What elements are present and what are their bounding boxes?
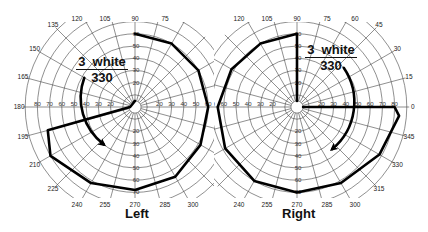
svg-text:345: 345: [404, 133, 415, 140]
svg-text:40: 40: [133, 55, 140, 61]
svg-text:60: 60: [295, 177, 302, 183]
svg-text:20: 20: [269, 101, 276, 107]
svg-text:75: 75: [323, 15, 331, 22]
svg-text:70: 70: [46, 101, 53, 107]
svg-text:300: 300: [188, 201, 199, 208]
svg-text:60: 60: [351, 15, 359, 22]
svg-text:30: 30: [394, 45, 402, 52]
svg-text:195: 195: [18, 133, 29, 140]
svg-text:285: 285: [322, 201, 333, 208]
svg-text:50: 50: [133, 165, 140, 171]
svg-text:30: 30: [295, 141, 302, 147]
svg-text:30: 30: [257, 101, 264, 107]
svg-text:50: 50: [193, 101, 200, 107]
svg-text:90: 90: [293, 15, 301, 22]
svg-text:330: 330: [392, 161, 403, 168]
svg-text:40: 40: [83, 101, 90, 107]
svg-text:210: 210: [29, 161, 40, 168]
right-eye-label: Right: [282, 206, 315, 221]
svg-text:30: 30: [133, 67, 140, 73]
left-eye-label: Left: [125, 206, 149, 221]
svg-text:255: 255: [100, 201, 111, 208]
svg-text:40: 40: [245, 101, 252, 107]
svg-text:50: 50: [133, 43, 140, 49]
svg-text:40: 40: [295, 153, 302, 159]
svg-text:285: 285: [160, 201, 171, 208]
svg-text:60: 60: [58, 101, 65, 107]
left-stimulus-size-color: 3 white: [76, 55, 128, 69]
svg-text:20: 20: [156, 101, 163, 107]
svg-text:50: 50: [71, 101, 78, 107]
visual-field-chart: 2020202030303030404040405050505060606060…: [0, 0, 428, 232]
svg-text:105: 105: [262, 15, 273, 22]
right-stimulus-size-color: 3 white: [305, 43, 357, 57]
svg-text:30: 30: [133, 141, 140, 147]
svg-text:80: 80: [34, 101, 41, 107]
svg-text:90: 90: [131, 15, 139, 22]
svg-text:30: 30: [95, 101, 102, 107]
svg-text:0: 0: [411, 103, 415, 110]
svg-text:75: 75: [161, 15, 169, 22]
svg-text:135: 135: [48, 21, 59, 28]
svg-text:240: 240: [72, 201, 83, 208]
svg-text:20: 20: [107, 101, 114, 107]
left-stimulus-label: 3 white 330: [76, 55, 128, 85]
svg-text:225: 225: [48, 185, 59, 192]
svg-text:20: 20: [295, 128, 302, 134]
svg-text:300: 300: [350, 201, 361, 208]
svg-text:150: 150: [29, 45, 40, 52]
svg-text:255: 255: [262, 201, 273, 208]
svg-text:60: 60: [220, 101, 227, 107]
svg-text:315: 315: [374, 185, 385, 192]
svg-text:50: 50: [233, 101, 240, 107]
svg-text:240: 240: [234, 201, 245, 208]
svg-text:20: 20: [133, 80, 140, 86]
svg-text:50: 50: [295, 165, 302, 171]
right-stimulus-intensity: 330: [305, 57, 357, 73]
svg-text:45: 45: [375, 21, 383, 28]
svg-text:180: 180: [14, 103, 25, 110]
svg-text:40: 40: [180, 101, 187, 107]
right-stimulus-label: 3 white 330: [305, 43, 357, 73]
svg-text:60: 60: [133, 177, 140, 183]
left-stimulus-intensity: 330: [76, 69, 128, 85]
svg-text:40: 40: [133, 153, 140, 159]
svg-text:105: 105: [100, 15, 111, 22]
svg-text:120: 120: [72, 15, 83, 22]
svg-text:120: 120: [234, 15, 245, 22]
svg-text:15: 15: [405, 73, 413, 80]
svg-text:20: 20: [133, 128, 140, 134]
svg-text:165: 165: [18, 73, 29, 80]
svg-text:30: 30: [168, 101, 175, 107]
